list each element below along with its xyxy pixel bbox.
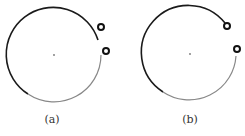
caption-b: (b) <box>182 113 198 126</box>
ring-a-1 <box>98 24 104 30</box>
ring-a-2 <box>103 48 109 54</box>
diagram-canvas: (a) (b) <box>0 0 245 136</box>
circle-b-light-arc <box>163 56 236 100</box>
circle-b-dark-arc <box>141 5 225 92</box>
ring-b-1 <box>224 23 230 29</box>
figure-b: (b) <box>141 5 240 126</box>
circle-a-light-arc <box>28 55 101 102</box>
circle-a-dark-arc <box>6 7 98 94</box>
caption-a: (a) <box>44 113 59 126</box>
center-dot-a <box>53 54 55 56</box>
center-dot-b <box>189 53 191 55</box>
figure-a: (a) <box>6 7 109 126</box>
ring-b-2 <box>234 46 240 52</box>
